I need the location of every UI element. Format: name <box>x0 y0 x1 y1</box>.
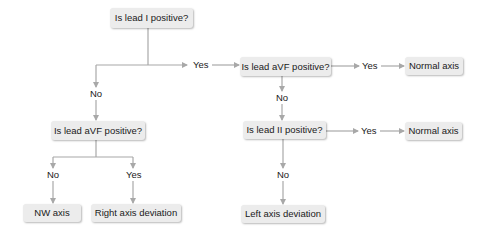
edge-label-avf-right-no: No <box>275 92 289 103</box>
edge-label-avf-left-yes: Yes <box>125 169 143 180</box>
edge-label-lead1-no: No <box>89 88 103 99</box>
flowchart-connectors <box>0 0 487 236</box>
edge-label-avf-left-no: No <box>46 169 60 180</box>
node-is-lead-ii-positive: Is lead II positive? <box>243 121 326 139</box>
edge-label-lead1-yes: Yes <box>192 59 210 70</box>
edge-label-lead2-no: No <box>276 169 290 180</box>
edge-label-avf-right-yes: Yes <box>361 60 379 71</box>
node-is-lead-avf-positive-left: Is lead aVF positive? <box>51 121 145 140</box>
node-normal-axis-1: Normal axis <box>405 57 463 75</box>
node-is-lead-i-positive: Is lead I positive? <box>110 8 193 28</box>
node-is-lead-avf-positive-right: Is lead aVF positive? <box>240 57 331 76</box>
node-left-axis-deviation: Left axis deviation <box>241 205 325 223</box>
node-right-axis-deviation: Right axis deviation <box>91 204 181 222</box>
node-normal-axis-2: Normal axis <box>405 122 462 140</box>
edge-label-lead2-yes: Yes <box>360 125 378 136</box>
node-nw-axis: NW axis <box>23 204 81 222</box>
